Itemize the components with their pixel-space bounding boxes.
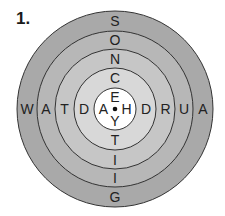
letter-bottom-5: G bbox=[110, 189, 121, 205]
letter-left-4: D bbox=[79, 101, 89, 117]
letter-top-1: S bbox=[110, 13, 119, 29]
letter-right-4: U bbox=[179, 101, 189, 117]
letter-top-3: N bbox=[110, 51, 120, 67]
letter-top-4: C bbox=[110, 70, 120, 86]
letter-top-2: O bbox=[110, 32, 121, 48]
concentric-target-diagram: SONCEYTIIGWATDAHDRUA bbox=[0, 0, 225, 216]
letter-left-1: W bbox=[20, 101, 34, 117]
letter-bottom-3: I bbox=[113, 152, 117, 168]
letter-left-2: A bbox=[41, 101, 51, 117]
letter-bottom-4: I bbox=[113, 170, 117, 186]
letter-right-5: A bbox=[198, 101, 208, 117]
letter-right-1: H bbox=[121, 101, 131, 117]
letter-left-5: A bbox=[99, 101, 109, 117]
letter-bottom-1: Y bbox=[110, 113, 120, 129]
letter-left-3: T bbox=[60, 101, 69, 117]
letter-top-5: E bbox=[110, 89, 119, 105]
letter-right-3: R bbox=[160, 101, 170, 117]
center-dot bbox=[113, 107, 118, 112]
letter-bottom-2: T bbox=[111, 132, 120, 148]
letter-right-2: D bbox=[141, 101, 151, 117]
